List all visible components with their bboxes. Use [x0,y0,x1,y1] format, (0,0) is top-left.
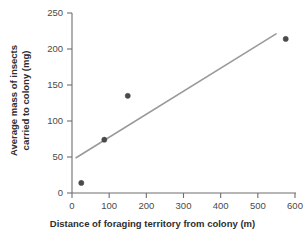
y-tick-label: 100 [47,115,63,126]
x-tick-label: 0 [69,200,74,211]
data-points-group [79,36,289,185]
x-tick-label: 400 [213,200,229,211]
x-tick-label: 600 [287,200,303,211]
scatter-chart-figure: Average mass of insects carried to colon… [0,0,305,241]
x-axis-title: Distance of foraging territory from colo… [0,218,305,229]
y-axis-ticks: 050100150200250 [47,7,72,198]
data-point [283,36,288,41]
data-point [125,93,130,98]
data-point [102,137,107,142]
x-tick-label: 500 [250,200,266,211]
y-tick-label: 200 [47,43,63,54]
x-tick-label: 100 [101,200,117,211]
x-axis-ticks: 0100200300400500600 [69,193,303,211]
x-tick-label: 300 [176,200,192,211]
y-tick-label: 150 [47,79,63,90]
data-point [79,180,84,185]
y-tick-label: 0 [58,187,63,198]
y-tick-label: 50 [52,151,63,162]
x-tick-label: 200 [138,200,154,211]
plot-area: 050100150200250 0100200300400500600 [0,0,305,241]
y-tick-label: 250 [47,7,63,18]
